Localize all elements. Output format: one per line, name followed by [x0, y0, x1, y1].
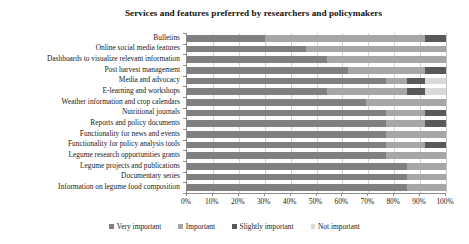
bar-segment — [386, 110, 425, 117]
x-axis-tick — [238, 193, 239, 196]
x-axis-tick-label: 0% — [181, 197, 191, 206]
bar-segment — [407, 184, 446, 191]
y-axis-label: Functionality for news and events — [0, 130, 180, 138]
bar-segment — [386, 142, 425, 149]
x-axis-tick — [264, 193, 265, 196]
bar-segment — [425, 88, 446, 95]
bar-row — [187, 129, 446, 140]
bar-segment — [348, 67, 426, 74]
x-axis-tick — [419, 193, 420, 196]
x-axis-tick-label: 20% — [231, 197, 245, 206]
y-axis-label: Reports and policy documents — [0, 119, 180, 127]
x-axis-tick — [393, 193, 394, 196]
bar-rows — [187, 33, 446, 193]
bar-row — [187, 33, 446, 44]
bar-row — [187, 118, 446, 129]
x-axis-tick-label: 90% — [412, 197, 426, 206]
x-axis-tick — [445, 193, 446, 196]
bar-segment — [407, 174, 446, 181]
bar-row — [187, 140, 446, 151]
x-axis-tick — [290, 193, 291, 196]
bar-segment — [187, 78, 386, 85]
legend-swatch-icon — [178, 224, 183, 229]
x-axis-tick — [212, 193, 213, 196]
x-axis-tick-label: 70% — [361, 197, 375, 206]
bar-segment — [187, 174, 407, 181]
bar-segment — [187, 142, 386, 149]
y-axis-label: Online social media features — [0, 44, 180, 52]
y-axis-label: Legume projects and publications — [0, 162, 180, 170]
legend-item[interactable]: Very important — [109, 222, 161, 231]
y-axis-label: Documentary series — [0, 172, 180, 180]
bar-row — [187, 150, 446, 161]
bar-row — [187, 182, 446, 193]
bar-segment — [187, 152, 386, 159]
bar-segment — [407, 88, 425, 95]
bar-segment — [187, 35, 265, 42]
bar-segment — [425, 120, 446, 127]
bar-segment — [187, 120, 386, 127]
x-axis-tick-label: 80% — [386, 197, 400, 206]
legend-item[interactable]: Important — [178, 222, 215, 231]
bar-segment — [187, 88, 327, 95]
y-axis-category-labels: BulletinsOnline social media featuresDas… — [0, 33, 183, 193]
x-axis-tick-label: 100% — [436, 197, 453, 206]
x-axis-tick-label: 50% — [309, 197, 323, 206]
bar-segment — [187, 56, 327, 63]
bar-segment — [187, 131, 386, 138]
x-axis-tick — [316, 193, 317, 196]
bar-segment — [366, 99, 446, 106]
x-axis-tick-label: 30% — [257, 197, 271, 206]
y-axis-label: Bulletins — [0, 34, 180, 42]
legend-swatch-icon — [109, 224, 114, 229]
legend-label: Important — [186, 222, 215, 231]
chart-title: Services and features preferred by resea… — [0, 8, 469, 18]
y-axis-label: Weather information and crop calendars — [0, 98, 180, 106]
bar-segment — [306, 46, 446, 53]
bar-segment — [386, 78, 407, 85]
legend-item[interactable]: Slightly important — [232, 222, 294, 231]
x-axis-tick — [186, 193, 187, 196]
bar-row — [187, 44, 446, 55]
legend-swatch-icon — [232, 224, 237, 229]
bar-segment — [265, 35, 426, 42]
x-axis-tick-label: 10% — [205, 197, 219, 206]
bar-row — [187, 172, 446, 183]
bar-segment — [327, 56, 446, 63]
bar-segment — [386, 131, 446, 138]
bar-row — [187, 54, 446, 65]
bar-segment — [407, 163, 446, 170]
bar-segment — [327, 88, 407, 95]
plot-area — [186, 33, 446, 193]
y-axis-label: Post harvest management — [0, 66, 180, 74]
y-axis-label: Legume research opportunities grants — [0, 151, 180, 159]
x-axis-tick-label: 60% — [335, 197, 349, 206]
bar-segment — [187, 184, 407, 191]
bar-row — [187, 65, 446, 76]
bar-segment — [187, 110, 386, 117]
bar-row — [187, 76, 446, 87]
x-axis-tick — [367, 193, 368, 196]
bar-segment — [187, 67, 348, 74]
legend-label: Not important — [318, 222, 360, 231]
y-axis-label: E-learning and workshops — [0, 87, 180, 95]
y-axis-label: Nutritional journals — [0, 108, 180, 116]
bar-row — [187, 108, 446, 119]
legend-swatch-icon — [311, 224, 316, 229]
bar-row — [187, 97, 446, 108]
y-axis-label: Functionality for policy analysis tools — [0, 140, 180, 148]
legend-label: Very important — [117, 222, 162, 231]
y-axis-label: Information on legume food composition — [0, 183, 180, 191]
bar-segment — [425, 78, 446, 85]
x-axis-tick-label: 40% — [283, 197, 297, 206]
bar-segment — [187, 46, 306, 53]
bar-segment — [425, 67, 446, 74]
legend-label: Slightly important — [240, 222, 294, 231]
chart-legend: Very importantImportantSlightly importan… — [0, 222, 469, 231]
legend-item[interactable]: Not important — [311, 222, 360, 231]
bar-segment — [407, 78, 425, 85]
bar-row — [187, 161, 446, 172]
bar-segment — [386, 120, 425, 127]
gridline — [446, 33, 447, 193]
bar-segment — [187, 163, 407, 170]
